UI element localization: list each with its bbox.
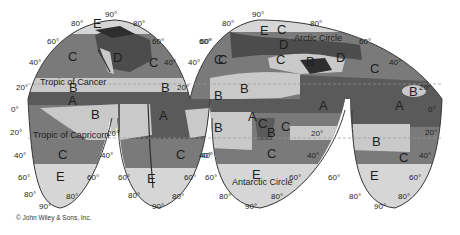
latitude-label: 40° bbox=[188, 59, 200, 67]
latitude-label: 20° bbox=[311, 130, 323, 138]
latitude-label: 60° bbox=[47, 38, 59, 46]
latitude-label: 40° bbox=[307, 152, 319, 160]
zone-label-c: C bbox=[370, 62, 379, 75]
latitude-label: 80° bbox=[172, 193, 184, 201]
latitude-label: 20° bbox=[419, 84, 431, 92]
zone-label-c: C bbox=[68, 50, 77, 63]
latitude-label: 90° bbox=[374, 203, 386, 211]
latitude-label: 60° bbox=[359, 38, 371, 46]
zone-label-d: D bbox=[113, 51, 122, 64]
latitude-label: 0° bbox=[11, 106, 19, 114]
latitude-label: 20° bbox=[10, 129, 22, 137]
latitude-label: 80° bbox=[133, 20, 145, 28]
zone-label-b: B bbox=[91, 108, 100, 121]
zone-label-a: A bbox=[248, 110, 257, 123]
climate-map: Tropic of Cancer Tropic of Capricorn Arc… bbox=[0, 0, 460, 235]
latitude-label: 90° bbox=[245, 203, 257, 211]
zone-label-c: C bbox=[399, 151, 408, 164]
latitude-label: 80° bbox=[222, 20, 234, 28]
zone-label-b: B bbox=[214, 121, 223, 134]
latitude-label: 60° bbox=[289, 174, 301, 182]
zone-label-c: C bbox=[277, 23, 286, 36]
zone-label-a: A bbox=[159, 109, 168, 122]
zone-label-c: C bbox=[276, 53, 285, 66]
zone-label-d: D bbox=[336, 51, 345, 64]
latitude-label: 20° bbox=[16, 84, 28, 92]
zone-label-b: B bbox=[306, 55, 315, 68]
zone-label-c: C bbox=[281, 120, 290, 133]
zone-label-b: B bbox=[267, 126, 276, 139]
latitude-label: 60° bbox=[152, 38, 164, 46]
zone-label-e: E bbox=[147, 172, 156, 185]
zone-label-b: B bbox=[214, 89, 223, 102]
zone-label-e: E bbox=[93, 17, 102, 30]
latitude-label: 60° bbox=[118, 174, 130, 182]
latitude-label: 0° bbox=[428, 106, 436, 114]
latitude-label: 60° bbox=[184, 174, 196, 182]
latitude-label: 60° bbox=[87, 174, 99, 182]
latitude-label: 40° bbox=[29, 59, 41, 67]
zone-label-c: C bbox=[58, 148, 67, 161]
latitude-label: 20° bbox=[425, 129, 437, 137]
arctic-circle-label: Arctic Circle bbox=[294, 34, 342, 43]
latitude-label: 40° bbox=[419, 152, 431, 160]
zone-label-a: A bbox=[68, 94, 77, 107]
latitude-label: 20° bbox=[107, 130, 119, 138]
latitude-label: 40° bbox=[199, 152, 211, 160]
zone-label-e: E bbox=[56, 170, 65, 183]
latitude-label: 80° bbox=[310, 20, 322, 28]
latitude-label: 80° bbox=[128, 192, 140, 200]
zone-label-e: E bbox=[260, 24, 269, 37]
zone-label-b: B bbox=[240, 82, 249, 95]
latitude-label: 60° bbox=[18, 174, 30, 182]
latitude-label: 80° bbox=[24, 191, 36, 199]
latitude-label: 80° bbox=[219, 193, 231, 201]
latitude-label: 80° bbox=[349, 193, 361, 201]
zone-label-c: C bbox=[258, 117, 267, 130]
latitude-label: 90° bbox=[252, 11, 264, 19]
zone-label-b: B bbox=[409, 85, 418, 98]
latitude-label: 60° bbox=[205, 174, 217, 182]
latitude-label: 60° bbox=[328, 174, 340, 182]
copyright-text: © John Wiley & Sons, Inc. bbox=[16, 215, 91, 222]
latitude-label: 90° bbox=[152, 203, 164, 211]
latitude-label: 80° bbox=[271, 193, 283, 201]
latitude-label: 80° bbox=[71, 20, 83, 28]
zone-label-b: B bbox=[161, 81, 170, 94]
zone-label-c: C bbox=[176, 148, 185, 161]
zone-label-c: C bbox=[214, 53, 223, 66]
zone-label-a: A bbox=[395, 99, 404, 112]
latitude-label: 40° bbox=[101, 152, 113, 160]
latitude-label: 40° bbox=[164, 59, 176, 67]
latitude-label: 40° bbox=[389, 59, 401, 67]
latitude-label: 60° bbox=[409, 174, 421, 182]
zone-label-e: E bbox=[370, 169, 379, 182]
zone-label-c: C bbox=[149, 56, 158, 69]
tropic-of-capricorn-label: Tropic of Capricorn bbox=[33, 131, 109, 140]
latitude-label: 80° bbox=[398, 193, 410, 201]
latitude-label: 60° bbox=[200, 38, 212, 46]
latitude-label: 90° bbox=[105, 11, 117, 19]
antarctic-circle-label: Antarctic Circle bbox=[232, 178, 293, 187]
zone-label-c: C bbox=[267, 147, 276, 160]
latitude-label: 80° bbox=[66, 193, 78, 201]
zone-label-e: E bbox=[252, 168, 261, 181]
zone-label-b: B bbox=[372, 135, 381, 148]
zone-label-d: D bbox=[279, 38, 288, 51]
latitude-label: 90° bbox=[39, 203, 51, 211]
latitude-label: 20° bbox=[177, 84, 189, 92]
zone-label-a: A bbox=[319, 99, 328, 112]
latitude-label: 40° bbox=[14, 152, 26, 160]
